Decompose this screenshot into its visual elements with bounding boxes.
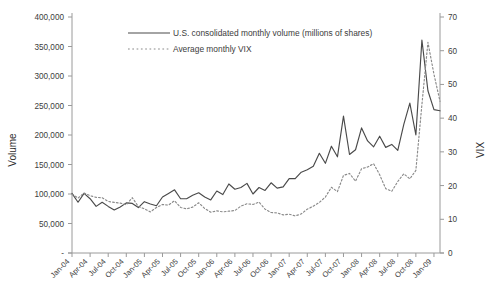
x-tick-label: Jan-09 xyxy=(411,257,434,280)
chart-container: -50,000100,000150,000200,000250,000300,0… xyxy=(0,0,498,304)
x-tick-label: Jan-04 xyxy=(49,257,72,280)
left-tick-label: 100,000 xyxy=(34,190,64,199)
legend-label: U.S. consolidated monthly volume (millio… xyxy=(173,28,372,38)
x-tick-label: Apr-05 xyxy=(139,257,161,279)
left-axis-ticks: -50,000100,000150,000200,000250,000300,0… xyxy=(34,13,72,258)
chart-legend: U.S. consolidated monthly volume (millio… xyxy=(128,28,372,54)
data-series xyxy=(72,40,440,216)
left-tick-label: 50,000 xyxy=(39,220,64,229)
x-tick-label: Apr-07 xyxy=(284,257,306,279)
right-tick-label: 40 xyxy=(448,114,458,123)
x-tick-label: Apr-04 xyxy=(67,257,89,279)
right-tick-label: 60 xyxy=(448,47,458,56)
legend-label: Average monthly VIX xyxy=(173,44,252,54)
x-tick-label: Jan-08 xyxy=(338,257,361,280)
left-tick-label: 350,000 xyxy=(34,43,64,52)
left-tick-label: 400,000 xyxy=(34,13,64,22)
x-tick-label: Apr-08 xyxy=(357,257,379,279)
series-line-vix xyxy=(72,42,440,216)
left-axis-title: Volume xyxy=(7,133,18,167)
left-tick-label: 200,000 xyxy=(34,131,64,140)
right-tick-label: 70 xyxy=(448,13,458,22)
x-tick-label: Jan-05 xyxy=(121,257,144,280)
left-tick-label: - xyxy=(61,249,64,258)
x-tick-label: Jan-07 xyxy=(266,257,289,280)
right-tick-label: 30 xyxy=(448,148,458,157)
right-tick-label: 20 xyxy=(448,182,458,191)
left-tick-label: 150,000 xyxy=(34,161,64,170)
axis-lines xyxy=(68,13,444,253)
right-tick-label: 50 xyxy=(448,80,458,89)
x-tick-label: Jan-06 xyxy=(193,257,216,280)
volume-vix-line-chart: -50,000100,000150,000200,000250,000300,0… xyxy=(0,0,498,304)
left-tick-label: 250,000 xyxy=(34,102,64,111)
right-axis-ticks: 010203040506070 xyxy=(440,13,458,258)
x-axis-ticks: Jan-04Apr-04Jul-04Oct-04Jan-05Apr-05Jul-… xyxy=(49,253,434,280)
right-axis-title: VIX xyxy=(475,142,486,158)
series-line-volume xyxy=(72,40,440,210)
right-tick-label: 10 xyxy=(448,215,458,224)
left-tick-label: 300,000 xyxy=(34,72,64,81)
x-tick-label: Apr-06 xyxy=(212,257,234,279)
right-tick-label: 0 xyxy=(448,249,453,258)
